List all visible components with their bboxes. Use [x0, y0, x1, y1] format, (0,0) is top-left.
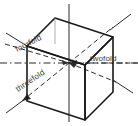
- symmetry-axes-figure: fourfold threefold twofold: [0, 0, 138, 126]
- label-twofold-text: twofold: [90, 54, 117, 63]
- label-threefold-text: threefold: [14, 68, 46, 94]
- axis-stub-bottom-right: [113, 80, 133, 93]
- cube-right-face: [85, 37, 113, 120]
- axis-diagonal-lower-right: [69, 63, 116, 82]
- cube-symmetry-diagram: fourfold threefold twofold: [0, 0, 138, 126]
- axis-diagonal-lower-right-line: [69, 63, 116, 82]
- label-threefold: threefold: [14, 68, 46, 94]
- axis-stub-bottom-left: [6, 99, 25, 113]
- label-twofold: twofold: [90, 54, 117, 63]
- axis-stub-top-right: [110, 14, 131, 30]
